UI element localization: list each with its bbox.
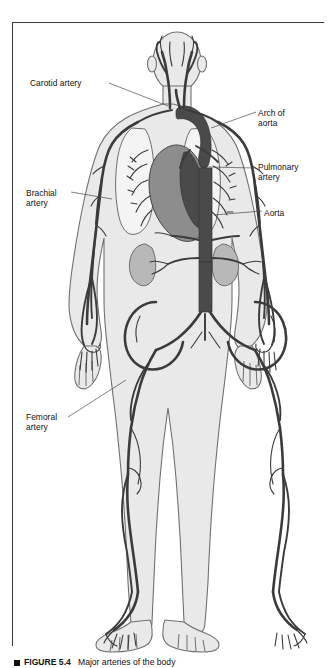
label-femoral-artery: Femoral artery — [26, 412, 57, 433]
label-aorta: Aorta — [264, 208, 284, 218]
figure-page: .body { fill:#e9e9e9; stroke:#707070; st… — [0, 0, 336, 668]
figure-title: Major arteries of the body — [78, 657, 175, 667]
figure-caption: FIGURE 5.4 Major arteries of the body — [24, 657, 175, 667]
figure-number: FIGURE 5.4 — [24, 657, 71, 667]
label-arch-of-aorta: Arch of aorta — [258, 108, 285, 129]
right-leg-arteries — [255, 350, 307, 649]
body-silhouette — [69, 32, 267, 634]
caption-bullet-icon — [14, 660, 20, 666]
leader-carotid-artery — [109, 83, 168, 106]
arterial-system-illustration: .body { fill:#e9e9e9; stroke:#707070; st… — [0, 0, 336, 668]
leader-arch-of-aorta — [211, 112, 256, 128]
label-brachial-artery: Brachial artery — [26, 188, 57, 209]
label-carotid-artery: Carotid artery — [30, 78, 81, 88]
label-pulmonary-artery: Pulmonary artery — [258, 162, 298, 183]
